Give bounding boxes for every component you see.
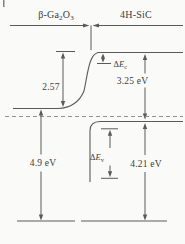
label-material-left: β-Ga2O3 <box>38 9 74 22</box>
subscript-v: v <box>101 156 105 163</box>
arrow-down-icon <box>108 171 112 177</box>
band-diagram-canvas: β-Ga2O3 4H-SiC 2.57 ΔEc 3.25 eV <box>0 0 185 244</box>
page-corner-artifact <box>3 0 5 7</box>
valence-band-line <box>90 122 183 183</box>
label-delta-ec: ΔEc <box>114 59 128 70</box>
subscript-c: c <box>124 63 127 70</box>
band-diagram-figure: β-Ga2O3 4H-SiC 2.57 ΔEc 3.25 eV <box>0 0 185 244</box>
label-material-right: 4H-SiC <box>120 9 152 20</box>
label-delta-ev: ΔEv <box>90 152 105 163</box>
label-band-bending-value: 2.57 <box>42 82 59 92</box>
arrow-down-icon <box>143 215 147 221</box>
conduction-band-line <box>13 53 183 109</box>
dimension-valence-band-offset: ΔEv <box>90 129 118 179</box>
arrow-up-icon <box>101 54 105 59</box>
material-left-mid: O <box>63 9 70 20</box>
arrow-down-icon <box>101 58 105 63</box>
material-extent-dimension <box>10 24 183 50</box>
label-ga2o3-bandgap: 4.9 eV <box>30 158 57 168</box>
arrow-left-icon <box>93 24 100 28</box>
dimension-valence-separation: 4.21 eV <box>130 123 161 221</box>
arrow-up-icon <box>108 130 112 136</box>
label-sic-bandgap: 3.25 eV <box>117 76 148 86</box>
arrow-right-icon <box>83 24 90 28</box>
label-valence-separation: 4.21 eV <box>130 159 161 169</box>
material-left-prefix: β-Ga <box>38 9 59 20</box>
arrow-down-icon <box>39 215 43 221</box>
dimension-conduction-band-offset: ΔEc <box>97 54 127 71</box>
dimension-ga2o3-bandgap: 4.9 eV <box>30 110 57 221</box>
dimension-band-bending: 2.57 <box>42 52 75 108</box>
material-left-sub2: 3 <box>70 14 74 22</box>
arrow-down-icon <box>61 101 65 107</box>
